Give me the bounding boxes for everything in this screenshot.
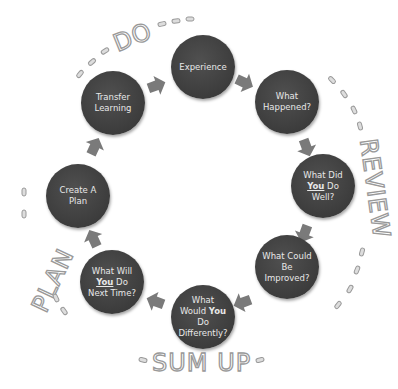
node-what-will-you-do-next-time-text: What Will You Do Next Time? — [84, 266, 140, 299]
node-transfer-learning: Transfer Learning — [81, 71, 145, 135]
node-what-would-you-do-differently-text: What Would You Do Differently? — [174, 295, 231, 339]
node-what-will-you-do-next-time: What Will You Do Next Time? — [80, 250, 144, 314]
phase-text-do: DO — [109, 17, 156, 58]
phase-text-review: REVIEW — [354, 137, 396, 240]
arrow-plan-to-transfer — [82, 134, 108, 159]
node-what-happened: What Happened? — [255, 70, 319, 134]
phase-text-sum-up: SUM UP — [152, 349, 251, 377]
node-transfer-learning-text: Transfer Learning — [91, 92, 136, 114]
node-create-a-plan: Create A Plan — [46, 164, 110, 228]
phase-label-sum-up: SUM UP — [139, 349, 265, 377]
node-create-a-plan-text: Create A Plan — [56, 185, 101, 207]
node-what-happened-text: What Happened? — [259, 91, 315, 113]
phase-text-plan: PLAN — [26, 244, 80, 316]
arrow-experience-to-happened — [232, 70, 257, 96]
node-what-would-you-do-differently: What Would You Do Differently? — [171, 285, 235, 349]
node-experience-text: Experience — [175, 62, 230, 73]
arrow-differently-to-nexttime — [143, 289, 167, 314]
arrow-transfer-to-experience — [145, 73, 169, 98]
node-what-did-you-do-well-text: What Did You Do Well? — [299, 170, 346, 203]
node-what-could-be-improved-text: What Could Be Improved? — [258, 251, 315, 284]
node-what-did-you-do-well: What Did You Do Well? — [291, 154, 355, 218]
node-experience: Experience — [171, 35, 235, 99]
arrow-nexttime-to-plan — [80, 226, 106, 251]
node-what-could-be-improved: What Could Be Improved? — [255, 235, 319, 299]
